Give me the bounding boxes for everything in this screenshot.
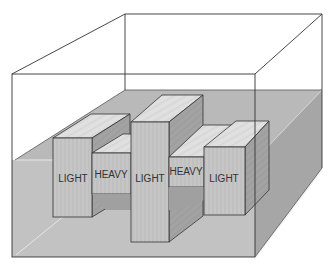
block-label: HEAVY [94, 169, 127, 180]
block-label: LIGHT [209, 173, 238, 184]
block-label: LIGHT [135, 173, 164, 184]
block-label: LIGHT [58, 173, 87, 184]
floating-blocks-diagram: LIGHT HEAVY LIGHT HEAVY LIGHT [0, 0, 333, 269]
block-label: HEAVY [169, 166, 202, 177]
